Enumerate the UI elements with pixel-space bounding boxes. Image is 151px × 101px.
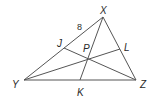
cevian-yl bbox=[24, 49, 120, 80]
label-j: J bbox=[56, 38, 63, 49]
label-x: X bbox=[99, 5, 107, 16]
label-k: K bbox=[77, 87, 85, 98]
label-z: Z bbox=[139, 79, 147, 90]
label-l: L bbox=[124, 42, 130, 53]
side-zx bbox=[103, 17, 136, 80]
measure-xj: 8 bbox=[77, 22, 82, 32]
label-p: P bbox=[83, 43, 90, 54]
triangle-diagram: X Y Z J L K P 8 bbox=[0, 0, 151, 101]
label-y: Y bbox=[12, 79, 20, 90]
